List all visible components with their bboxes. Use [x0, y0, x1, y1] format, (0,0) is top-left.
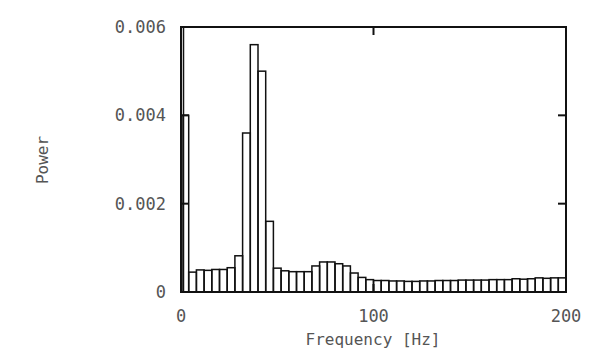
histogram-bar — [474, 280, 482, 292]
histogram-bar — [366, 280, 374, 292]
x-tick-label: 200 — [551, 306, 582, 326]
histogram-bar — [397, 281, 405, 292]
histogram-bar — [520, 279, 528, 292]
axis-ticks — [181, 27, 566, 292]
plot-frame — [181, 27, 566, 292]
histogram-bar — [250, 45, 258, 292]
histogram-bar — [504, 280, 512, 292]
histogram-bar — [535, 278, 543, 292]
x-axis-label: Frequency [Hz] — [306, 330, 441, 349]
y-tick-label: 0.006 — [115, 17, 166, 37]
histogram-bar — [258, 71, 266, 292]
histogram-bar — [273, 268, 281, 292]
histogram-bar — [320, 262, 328, 292]
histogram-bar — [512, 279, 520, 292]
histogram-bar — [335, 264, 343, 292]
histogram-bar — [304, 272, 312, 292]
histogram-bar — [389, 281, 397, 292]
y-tick-label: 0.002 — [115, 194, 166, 214]
y-tick-labels: 00.0020.0040.006 — [115, 17, 166, 302]
histogram-bar — [404, 281, 412, 292]
histogram-bar — [312, 266, 320, 292]
histogram-bar — [427, 281, 435, 292]
histogram-bar — [489, 280, 497, 292]
y-tick-label: 0.004 — [115, 105, 166, 125]
histogram-bar — [212, 269, 220, 292]
histogram-bar — [196, 270, 204, 292]
histogram-bar — [266, 221, 274, 292]
histogram-bar — [289, 272, 297, 292]
histogram-bar — [551, 278, 559, 292]
histogram-bar — [458, 280, 466, 292]
histogram-bar — [528, 279, 536, 292]
power-spectrum-chart: 00.0020.0040.006 0100200 Frequency [Hz] … — [0, 0, 611, 364]
histogram-bar — [220, 269, 228, 292]
y-axis-label: Power — [33, 136, 52, 185]
histogram-bar — [189, 272, 197, 292]
histogram-bar — [235, 256, 243, 292]
histogram-bar — [204, 270, 212, 292]
histogram-bar — [374, 281, 382, 292]
histogram-bar — [281, 271, 289, 292]
histogram-bar — [343, 266, 351, 292]
histogram-bar — [358, 277, 366, 292]
histogram-bar — [243, 133, 251, 292]
histogram-bar — [497, 280, 505, 292]
histogram-bar — [443, 281, 451, 292]
histogram-bar — [543, 278, 551, 292]
y-tick-label: 0 — [156, 282, 166, 302]
histogram-bar — [451, 281, 459, 292]
histogram-bar — [558, 278, 566, 292]
histogram-bar — [350, 273, 358, 292]
x-tick-labels: 0100200 — [176, 306, 581, 326]
histogram-bar — [381, 281, 389, 292]
histogram-bar — [420, 281, 428, 292]
histogram-bar — [327, 262, 335, 292]
histogram-bars — [181, 27, 566, 292]
histogram-bar — [227, 268, 235, 292]
histogram-bar — [412, 281, 420, 292]
histogram-bar — [466, 280, 474, 292]
x-tick-label: 0 — [176, 306, 186, 326]
histogram-bar — [481, 280, 489, 292]
histogram-bar — [297, 272, 305, 292]
histogram-bar — [435, 281, 443, 292]
x-tick-label: 100 — [358, 306, 389, 326]
